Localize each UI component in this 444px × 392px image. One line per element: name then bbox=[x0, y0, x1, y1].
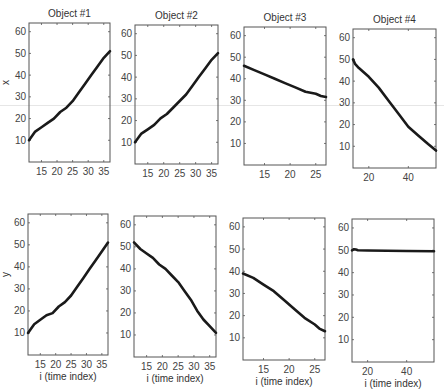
y-tick-label: 50 bbox=[121, 50, 133, 61]
y-axis-label: x bbox=[0, 80, 11, 85]
subplot-6: 1020304050601520253035i (time index) bbox=[120, 216, 216, 384]
x-tick-label: 35 bbox=[206, 168, 218, 179]
axes-frame bbox=[29, 23, 110, 162]
y-tick-label: 60 bbox=[339, 32, 351, 43]
y-tick-label: 40 bbox=[230, 73, 242, 84]
y-tick-label: 20 bbox=[120, 307, 132, 318]
subplot-title: Object #4 bbox=[373, 14, 416, 25]
trajectory-line bbox=[134, 242, 216, 332]
y-tick-label: 60 bbox=[229, 221, 241, 232]
trajectory-line bbox=[28, 243, 108, 333]
y-tick-label: 20 bbox=[230, 116, 242, 127]
y-tick-label: 40 bbox=[120, 263, 132, 274]
y-tick-label: 30 bbox=[229, 288, 241, 299]
y-tick-label: 50 bbox=[120, 241, 132, 252]
y-tick-label: 10 bbox=[339, 141, 351, 152]
axes-frame bbox=[135, 25, 218, 164]
y-tick-label: 10 bbox=[14, 327, 26, 338]
x-axis-label: i (time index) bbox=[146, 373, 203, 384]
x-tick-label: 15 bbox=[35, 359, 47, 370]
x-axis-label: i (time index) bbox=[255, 376, 312, 387]
x-tick-label: 35 bbox=[204, 361, 216, 372]
x-tick-label: 20 bbox=[285, 169, 297, 180]
y-tick-label: 50 bbox=[338, 245, 350, 256]
x-tick-label: 30 bbox=[81, 359, 93, 370]
x-tick-label: 25 bbox=[310, 169, 322, 180]
subplot-title: Object #1 bbox=[48, 8, 91, 19]
x-tick-label: 25 bbox=[67, 166, 79, 177]
y-tick-label: 40 bbox=[229, 266, 241, 277]
y-tick-label: 30 bbox=[121, 93, 133, 104]
x-tick-label: 25 bbox=[173, 361, 185, 372]
x-tick-label: 15 bbox=[259, 169, 271, 180]
y-tick-label: 60 bbox=[338, 222, 350, 233]
y-tick-label: 40 bbox=[15, 70, 27, 81]
x-tick-label: 20 bbox=[51, 166, 63, 177]
x-tick-label: 30 bbox=[83, 166, 95, 177]
x-tick-label: 15 bbox=[258, 364, 270, 375]
axes-frame bbox=[134, 216, 216, 357]
x-tick-label: 20 bbox=[50, 359, 62, 370]
axes-frame bbox=[352, 219, 434, 362]
y-tick-label: 30 bbox=[120, 285, 132, 296]
axes-frame bbox=[244, 27, 326, 165]
x-tick-label: 35 bbox=[98, 166, 110, 177]
axes-frame bbox=[353, 29, 436, 168]
subplot-title: Object #3 bbox=[264, 12, 307, 23]
x-tick-label: 30 bbox=[188, 361, 200, 372]
x-tick-label: 25 bbox=[309, 364, 321, 375]
x-tick-label: 25 bbox=[174, 168, 186, 179]
figure-grid: 1020304050601520253035Object #1x10203040… bbox=[0, 0, 444, 392]
y-tick-label: 60 bbox=[121, 28, 133, 39]
y-tick-label: 50 bbox=[14, 239, 26, 250]
y-tick-label: 20 bbox=[338, 312, 350, 323]
y-tick-label: 10 bbox=[121, 137, 133, 148]
y-tick-label: 40 bbox=[339, 76, 351, 87]
trajectory-line bbox=[29, 51, 110, 140]
axes-frame bbox=[28, 214, 108, 355]
subplot-4: 1020304050602040Object #4 bbox=[339, 14, 436, 183]
y-tick-label: 20 bbox=[15, 113, 27, 124]
y-tick-label: 50 bbox=[339, 54, 351, 65]
y-tick-label: 50 bbox=[15, 48, 27, 59]
x-tick-label: 30 bbox=[190, 168, 202, 179]
axes-frame bbox=[243, 218, 325, 360]
y-tick-label: 30 bbox=[230, 95, 242, 106]
x-tick-label: 15 bbox=[141, 361, 153, 372]
x-tick-label: 20 bbox=[157, 361, 169, 372]
trajectory-line bbox=[352, 249, 434, 251]
x-tick-label: 40 bbox=[401, 366, 413, 377]
subplot-title: Object #2 bbox=[155, 10, 198, 21]
x-tick-label: 20 bbox=[363, 172, 375, 183]
y-tick-label: 20 bbox=[14, 305, 26, 316]
trajectory-line bbox=[243, 274, 325, 332]
y-tick-label: 30 bbox=[339, 97, 351, 108]
y-tick-label: 30 bbox=[14, 283, 26, 294]
y-tick-label: 60 bbox=[15, 26, 27, 37]
y-tick-label: 10 bbox=[15, 135, 27, 146]
y-tick-label: 20 bbox=[121, 115, 133, 126]
y-tick-label: 10 bbox=[338, 334, 350, 345]
x-tick-label: 20 bbox=[284, 364, 296, 375]
y-tick-label: 10 bbox=[230, 138, 242, 149]
y-tick-label: 30 bbox=[15, 91, 27, 102]
y-tick-label: 10 bbox=[229, 332, 241, 343]
x-axis-label: i (time index) bbox=[364, 378, 421, 389]
y-tick-label: 50 bbox=[229, 244, 241, 255]
y-tick-label: 40 bbox=[338, 267, 350, 278]
y-tick-label: 60 bbox=[230, 30, 242, 41]
y-tick-label: 60 bbox=[14, 217, 26, 228]
y-tick-label: 60 bbox=[120, 219, 132, 230]
y-tick-label: 40 bbox=[121, 72, 133, 83]
trajectory-line bbox=[135, 53, 218, 142]
trajectory-line bbox=[244, 66, 326, 97]
x-tick-label: 40 bbox=[403, 172, 415, 183]
x-tick-label: 25 bbox=[66, 359, 78, 370]
x-tick-label: 15 bbox=[142, 168, 154, 179]
x-axis-label: i (time index) bbox=[39, 371, 96, 382]
y-tick-label: 20 bbox=[229, 310, 241, 321]
trajectory-line bbox=[353, 59, 436, 150]
subplot-3: 102030405060152025Object #3 bbox=[230, 12, 326, 180]
subplot-2: 1020304050601520253035Object #2 bbox=[121, 10, 218, 179]
y-tick-label: 30 bbox=[338, 289, 350, 300]
